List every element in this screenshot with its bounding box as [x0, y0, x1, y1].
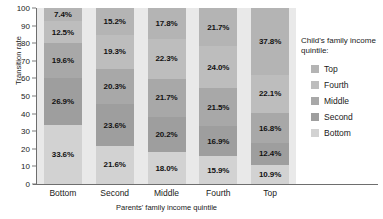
- legend-label: Bottom: [324, 128, 351, 138]
- bar-segment-second[interactable]: 12.4%: [251, 143, 289, 165]
- bar-segment-label: 15.2%: [104, 17, 126, 26]
- bar-segment-second[interactable]: 20.2%: [148, 117, 186, 153]
- x-tick-label-middle: Middle: [141, 188, 193, 198]
- bar-segment-label: 21.6%: [104, 160, 126, 169]
- bar-segment-top[interactable]: 15.2%: [96, 8, 134, 35]
- plot-area: 7.4%12.5%19.6%26.9%33.6%15.2%19.3%20.3%2…: [37, 8, 296, 184]
- bar-group-top[interactable]: 37.8%22.1%16.8%12.4%10.9%: [251, 8, 289, 184]
- bar-segment-label: 26.9%: [52, 97, 74, 106]
- bar-segment-label: 19.3%: [104, 47, 126, 56]
- legend-item-top[interactable]: Top: [301, 61, 383, 77]
- bar-segment-label: 12.4%: [259, 149, 281, 158]
- y-tick-label: 30: [21, 127, 30, 136]
- x-tick-label-top: Top: [244, 188, 296, 198]
- bar-segment-middle[interactable]: 16.8%: [251, 113, 289, 143]
- stacked-bar-chart: Transition rate 1009080706050403020100 7…: [0, 0, 383, 219]
- y-tick-label: 90: [21, 21, 30, 30]
- bar-segment-fourth[interactable]: 19.3%: [96, 35, 134, 69]
- legend-item-middle[interactable]: Middle: [301, 93, 383, 109]
- bar-segment-label: 10.9%: [259, 170, 281, 179]
- bar-stack: 21.7%24.0%21.5%16.9%15.9%: [199, 8, 237, 184]
- bar-segment-bottom[interactable]: 18.0%: [148, 152, 186, 184]
- legend-item-bottom[interactable]: Bottom: [301, 125, 383, 141]
- legend-item-second[interactable]: Second: [301, 109, 383, 125]
- bar-segment-bottom[interactable]: 33.6%: [44, 125, 82, 184]
- bar-segment-label: 16.8%: [259, 124, 281, 133]
- bar-segment-fourth[interactable]: 12.5%: [44, 21, 82, 43]
- bar-segment-fourth[interactable]: 24.0%: [199, 46, 237, 88]
- bar-segment-label: 20.2%: [155, 130, 177, 139]
- legend-swatch-fourth: [311, 81, 319, 89]
- bar-segment-label: 37.8%: [259, 37, 281, 46]
- legend-title: Child's family income quintile:: [301, 36, 379, 56]
- bar-segment-label: 21.7%: [155, 93, 177, 102]
- bar-segment-bottom[interactable]: 15.9%: [199, 156, 237, 184]
- bar-segment-top[interactable]: 37.8%: [251, 8, 289, 75]
- bar-segment-label: 24.0%: [207, 63, 229, 72]
- legend-swatch-second: [311, 113, 319, 121]
- legend-label: Middle: [324, 96, 349, 106]
- bar-segment-second[interactable]: 16.9%: [199, 126, 237, 156]
- bar-segment-label: 21.7%: [207, 23, 229, 32]
- bar-segment-label: 22.3%: [155, 54, 177, 63]
- y-axis: 1009080706050403020100: [0, 8, 36, 184]
- bar-segment-bottom[interactable]: 10.9%: [251, 165, 289, 184]
- bar-segment-label: 7.4%: [54, 10, 72, 19]
- bar-stack: 7.4%12.5%19.6%26.9%33.6%: [44, 8, 82, 184]
- y-tick-label: 70: [21, 56, 30, 65]
- bar-segment-label: 16.9%: [207, 137, 229, 146]
- y-tick-label: 40: [21, 109, 30, 118]
- bar-group-fourth[interactable]: 21.7%24.0%21.5%16.9%15.9%: [199, 8, 237, 184]
- bar-segment-middle[interactable]: 21.5%: [199, 88, 237, 126]
- y-tick-label: 50: [21, 92, 30, 101]
- bar-group-bottom[interactable]: 7.4%12.5%19.6%26.9%33.6%: [44, 8, 82, 184]
- y-tick-label: 100: [17, 4, 30, 13]
- bar-segment-second[interactable]: 26.9%: [44, 78, 82, 125]
- y-tick-label: 20: [21, 144, 30, 153]
- bar-segment-label: 20.3%: [104, 82, 126, 91]
- bar-segment-middle[interactable]: 19.6%: [44, 43, 82, 77]
- legend-label: Fourth: [324, 80, 349, 90]
- bar-segment-label: 18.0%: [155, 164, 177, 173]
- legend-items: TopFourthMiddleSecondBottom: [301, 61, 383, 141]
- y-tick-label: 60: [21, 74, 30, 83]
- x-tick-label-bottom: Bottom: [37, 188, 89, 198]
- x-axis-title: Parents' family income quintile: [37, 203, 296, 212]
- bar-segment-label: 23.6%: [104, 121, 126, 130]
- bar-segment-fourth[interactable]: 22.3%: [148, 39, 186, 78]
- legend-swatch-top: [311, 65, 319, 73]
- legend-label: Second: [324, 112, 353, 122]
- bar-segment-top[interactable]: 17.8%: [148, 8, 186, 39]
- bar-segment-label: 22.1%: [259, 89, 281, 98]
- bar-stack: 37.8%22.1%16.8%12.4%10.9%: [251, 8, 289, 184]
- bar-stack: 17.8%22.3%21.7%20.2%18.0%: [148, 8, 186, 184]
- bar-segment-middle[interactable]: 21.7%: [148, 79, 186, 117]
- bar-segment-bottom[interactable]: 21.6%: [96, 146, 134, 184]
- y-tick-label: 0: [26, 180, 30, 189]
- legend-swatch-bottom: [311, 129, 319, 137]
- legend-item-fourth[interactable]: Fourth: [301, 77, 383, 93]
- bar-group-second[interactable]: 15.2%19.3%20.3%23.6%21.6%: [96, 8, 134, 184]
- bar-segment-label: 21.5%: [207, 103, 229, 112]
- bar-segment-second[interactable]: 23.6%: [96, 104, 134, 146]
- x-tick-label-second: Second: [89, 188, 141, 198]
- bar-segment-top[interactable]: 21.7%: [199, 8, 237, 46]
- bar-group-middle[interactable]: 17.8%22.3%21.7%20.2%18.0%: [148, 8, 186, 184]
- legend: Child's family income quintile: TopFourt…: [301, 36, 383, 141]
- bar-segment-middle[interactable]: 20.3%: [96, 69, 134, 105]
- y-tick-label: 10: [21, 162, 30, 171]
- bar-segment-label: 33.6%: [52, 150, 74, 159]
- y-tick-label: 80: [21, 39, 30, 48]
- x-axis-line: [33, 184, 378, 185]
- bar-segment-fourth[interactable]: 22.1%: [251, 75, 289, 114]
- legend-swatch-middle: [311, 97, 319, 105]
- bar-segment-label: 17.8%: [155, 19, 177, 28]
- y-axis-line: [36, 8, 37, 184]
- bar-segment-label: 12.5%: [52, 28, 74, 37]
- bar-segment-top[interactable]: 7.4%: [44, 8, 82, 21]
- legend-label: Top: [324, 64, 338, 74]
- bar-segment-label: 15.9%: [207, 166, 229, 175]
- x-tick-label-fourth: Fourth: [192, 188, 244, 198]
- bar-segment-label: 19.6%: [52, 56, 74, 65]
- bar-stack: 15.2%19.3%20.3%23.6%21.6%: [96, 8, 134, 184]
